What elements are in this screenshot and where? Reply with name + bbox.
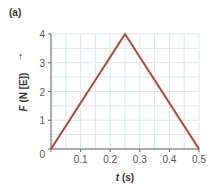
grid-lines [51, 34, 199, 149]
svg-text:0.5: 0.5 [192, 154, 206, 165]
svg-text:2: 2 [39, 87, 45, 98]
tick-labels: 0.10.20.30.40.501234 [39, 29, 206, 165]
svg-text:0.3: 0.3 [133, 154, 147, 165]
x-axis-label: t (s) [116, 172, 134, 183]
svg-text:1: 1 [39, 115, 45, 126]
svg-text:0.4: 0.4 [162, 154, 176, 165]
svg-text:4: 4 [39, 29, 45, 40]
svg-text:0: 0 [39, 149, 45, 160]
force-time-chart: 0.10.20.30.40.501234 t (s) F (N [E]) → [0, 0, 217, 190]
svg-text:3: 3 [39, 58, 45, 69]
y-axis-label: F (N [E]) [18, 73, 29, 112]
svg-text:0.1: 0.1 [74, 154, 88, 165]
vector-arrow-icon: → [13, 52, 24, 62]
svg-text:0.2: 0.2 [103, 154, 117, 165]
